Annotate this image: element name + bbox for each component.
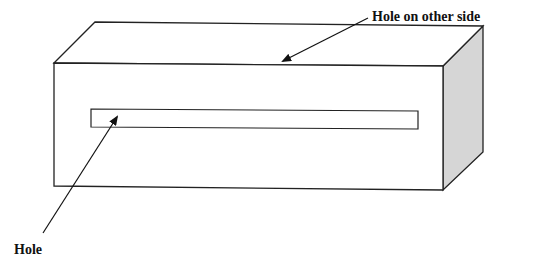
box-diagram (0, 0, 536, 265)
slot-hole (91, 109, 418, 129)
label-hole-other-side: Hole on other side (372, 10, 480, 24)
label-hole: Hole (14, 243, 42, 257)
box-top-face (54, 22, 483, 66)
